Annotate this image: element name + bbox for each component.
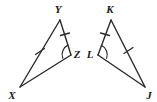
vertex-label-X: X xyxy=(7,89,16,101)
vertex-label-Y: Y xyxy=(55,3,63,15)
side-YZ xyxy=(60,20,71,55)
figure-canvas: Y Z X K L J xyxy=(0,0,157,102)
vertex-label-K: K xyxy=(105,3,114,15)
side-LJ xyxy=(98,55,145,87)
vertex-label-L: L xyxy=(86,48,94,60)
geometry-figure: Y Z X K L J xyxy=(0,0,157,102)
vertex-label-Z: Z xyxy=(73,48,81,60)
vertex-label-J: J xyxy=(145,89,152,101)
angle-arc-L xyxy=(101,45,107,58)
side-KL xyxy=(98,20,111,55)
side-KJ xyxy=(111,20,145,87)
triangle-klj: K L J xyxy=(86,3,153,101)
side-XY xyxy=(20,20,60,87)
side-XZ xyxy=(20,55,71,87)
angle-arc-Z xyxy=(62,45,68,58)
triangle-xyz: Y Z X xyxy=(7,3,80,101)
